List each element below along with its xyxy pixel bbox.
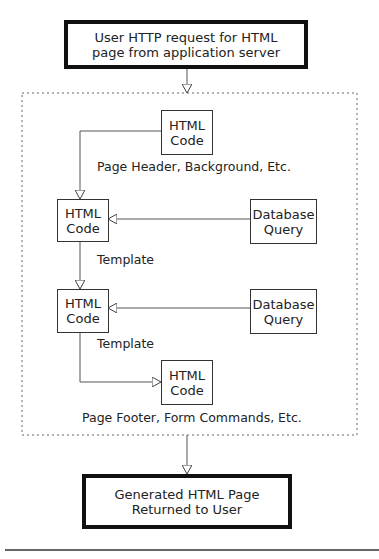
label-template-1: Template	[97, 252, 154, 267]
html-code-4-line1: HTML	[169, 368, 205, 383]
db-query-2-line1: Database	[252, 297, 314, 312]
html-code-box-1: HTMLCode	[161, 110, 213, 155]
html-code-1-line2: Code	[169, 133, 205, 148]
database-query-box-2: DatabaseQuery	[250, 289, 317, 334]
label-page-header: Page Header, Background, Etc.	[97, 159, 291, 174]
db-query-1-line2: Query	[252, 222, 314, 237]
html-code-2-line2: Code	[65, 221, 101, 236]
db-query-2-line2: Query	[252, 312, 314, 327]
user-request-line2: page from application server	[92, 45, 280, 60]
html-code-4-line2: Code	[169, 383, 205, 398]
user-request-line1: User HTTP request for HTML	[92, 30, 280, 45]
html-code-box-2: HTMLCode	[57, 199, 109, 242]
html-code-1-line1: HTML	[169, 118, 205, 133]
user-request-box: User HTTP request for HTMLpage from appl…	[64, 20, 308, 69]
label-page-footer: Page Footer, Form Commands, Etc.	[82, 410, 302, 425]
html-code-3-line2: Code	[65, 311, 101, 326]
label-template-2: Template	[97, 336, 154, 351]
html-code-3-line1: HTML	[65, 296, 101, 311]
html-code-box-3: HTMLCode	[57, 289, 109, 333]
db-query-1-line1: Database	[252, 207, 314, 222]
database-query-box-1: DatabaseQuery	[250, 199, 317, 244]
generated-page-box: Generated HTML PageReturned to User	[82, 474, 292, 529]
generated-page-line1: Generated HTML Page	[115, 487, 260, 502]
html-code-box-4: HTMLCode	[161, 360, 213, 405]
generated-page-line2: Returned to User	[115, 502, 260, 517]
html-code-2-line1: HTML	[65, 206, 101, 221]
